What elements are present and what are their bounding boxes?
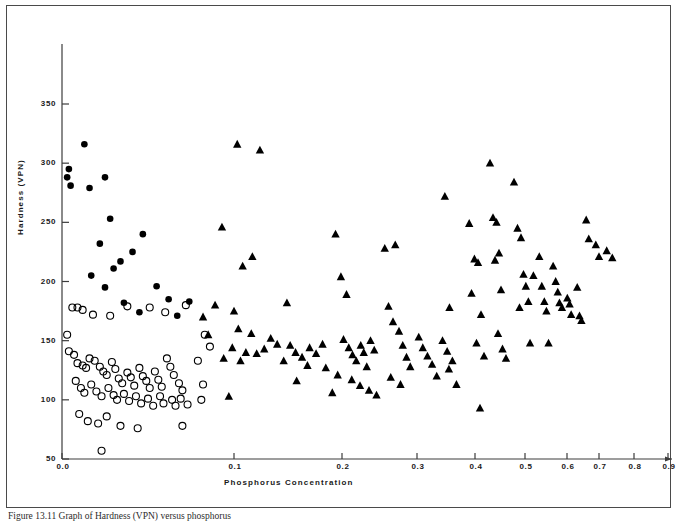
data-point-filled-triangle: [538, 282, 546, 290]
y-tick-label: 50: [22, 454, 56, 463]
data-markers: [64, 140, 617, 454]
data-point-filled-triangle: [563, 294, 571, 302]
data-point-open-circle: [182, 302, 189, 309]
x-tick-label: 0.3: [408, 462, 428, 471]
data-point-filled-triangle: [582, 216, 590, 224]
data-point-filled-triangle: [592, 240, 600, 248]
data-point-filled-circle: [66, 166, 73, 173]
data-point-filled-triangle: [391, 240, 399, 248]
data-point-filled-triangle: [472, 339, 480, 347]
data-point-filled-circle: [136, 309, 143, 316]
data-point-filled-triangle: [365, 386, 373, 394]
data-point-filled-triangle: [554, 288, 562, 296]
data-point-filled-triangle: [199, 313, 207, 321]
x-tick-marks: [62, 453, 668, 459]
data-point-filled-circle: [117, 258, 124, 265]
data-point-filled-triangle: [542, 307, 550, 315]
figure-container: Hardness (VPN) Phosphorus Concentration …: [0, 0, 680, 524]
data-point-filled-triangle: [267, 334, 275, 342]
data-point-filled-triangle: [585, 235, 593, 243]
data-point-open-circle: [81, 389, 88, 396]
data-point-open-circle: [179, 387, 186, 394]
data-point-open-circle: [98, 393, 105, 400]
data-point-open-circle: [175, 380, 182, 387]
data-point-filled-triangle: [339, 335, 347, 343]
data-point-open-circle: [103, 413, 110, 420]
data-point-filled-triangle: [337, 272, 345, 280]
data-point-open-circle: [88, 381, 95, 388]
data-point-filled-triangle: [225, 392, 233, 400]
x-tick-label: 0.9: [659, 462, 679, 471]
y-tick-label: 150: [22, 336, 56, 345]
data-point-filled-triangle: [465, 219, 473, 227]
figure-caption: Figure 13.11 Graph of Hardness (VPN) ver…: [8, 511, 231, 521]
data-point-open-circle: [136, 364, 143, 371]
data-point-filled-triangle: [247, 329, 255, 337]
data-point-filled-triangle: [441, 192, 449, 200]
data-point-filled-triangle: [342, 290, 350, 298]
data-point-open-circle: [105, 385, 112, 392]
data-point-filled-circle: [67, 182, 74, 189]
data-point-open-circle: [150, 402, 157, 409]
data-point-filled-triangle: [438, 336, 446, 344]
data-point-open-circle: [95, 420, 102, 427]
data-point-open-circle: [158, 383, 165, 390]
data-point-open-circle: [200, 381, 207, 388]
data-point-open-circle: [114, 396, 121, 403]
data-point-filled-triangle: [381, 244, 389, 252]
data-point-filled-triangle: [549, 262, 557, 270]
data-point-filled-triangle: [526, 339, 534, 347]
data-point-open-circle: [131, 382, 138, 389]
x-tick-label: 0.1: [225, 462, 245, 471]
data-point-open-circle: [162, 309, 169, 316]
data-point-filled-triangle: [529, 271, 537, 279]
data-point-filled-triangle: [328, 388, 336, 396]
data-point-filled-triangle: [283, 298, 291, 306]
data-point-filled-triangle: [291, 348, 299, 356]
data-point-filled-triangle: [395, 327, 403, 335]
data-point-filled-triangle: [357, 341, 365, 349]
y-tick-label: 100: [22, 395, 56, 404]
data-point-open-circle: [107, 312, 114, 319]
data-point-filled-triangle: [497, 285, 505, 293]
data-point-filled-triangle: [242, 348, 250, 356]
data-point-filled-triangle: [419, 343, 427, 351]
data-point-filled-triangle: [502, 354, 510, 362]
data-point-filled-triangle: [423, 352, 431, 360]
data-point-open-circle: [194, 357, 201, 364]
data-point-filled-triangle: [540, 297, 548, 305]
data-point-filled-triangle: [448, 356, 456, 364]
data-point-open-circle: [89, 311, 96, 318]
data-point-filled-triangle: [322, 363, 330, 371]
data-point-filled-triangle: [494, 329, 502, 337]
data-point-filled-triangle: [348, 375, 356, 383]
data-point-filled-triangle: [603, 246, 611, 254]
data-point-filled-circle: [107, 215, 114, 222]
data-point-filled-circle: [110, 265, 117, 272]
data-point-filled-circle: [86, 185, 93, 192]
data-point-filled-triangle: [363, 362, 371, 370]
x-axis-label: Phosphorus Concentration: [224, 478, 354, 487]
data-point-filled-triangle: [396, 380, 404, 388]
data-point-filled-circle: [174, 313, 181, 320]
x-tick-label: 0.0: [53, 462, 73, 471]
data-point-open-circle: [139, 373, 146, 380]
data-point-open-circle: [163, 355, 170, 362]
data-point-filled-triangle: [366, 336, 374, 344]
data-point-filled-triangle: [551, 277, 559, 285]
data-point-open-circle: [167, 363, 174, 370]
data-point-filled-triangle: [486, 159, 494, 167]
data-point-filled-circle: [97, 240, 104, 247]
data-point-filled-triangle: [280, 356, 288, 364]
data-point-filled-triangle: [452, 380, 460, 388]
x-tick-label: 0.8: [625, 462, 645, 471]
data-point-filled-triangle: [238, 262, 246, 270]
data-point-filled-triangle: [573, 283, 581, 291]
data-point-open-circle: [134, 425, 141, 432]
data-point-open-circle: [179, 422, 186, 429]
data-point-filled-triangle: [305, 343, 313, 351]
data-point-filled-triangle: [292, 377, 300, 385]
data-point-filled-triangle: [517, 233, 525, 241]
data-point-filled-triangle: [389, 317, 397, 325]
data-point-filled-circle: [64, 174, 71, 181]
